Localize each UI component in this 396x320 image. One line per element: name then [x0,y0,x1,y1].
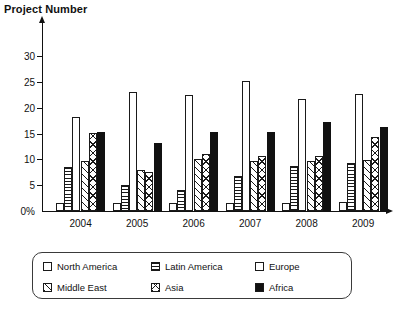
legend-item[interactable]: Asia [151,282,183,293]
chart-legend: North AmericaLatin AmericaEuropeMiddle E… [32,252,352,299]
legend-item[interactable]: Africa [255,282,293,293]
bar [145,172,153,211]
y-tick-20 [37,108,42,109]
x-tick-label: 2008 [295,218,317,229]
bar [298,99,306,211]
chart-title: Project Number [4,3,87,15]
legend-label: Europe [269,261,300,272]
bar [81,161,89,211]
legend-label: North America [57,261,117,272]
legend-swatch-icon [255,283,264,292]
bar [72,117,80,211]
y-tick-25 [37,82,42,83]
y-tick-label: 15 [24,128,35,139]
x-tick-label: 2007 [239,218,261,229]
bar [371,137,379,211]
bar [250,161,258,211]
bar-group [113,22,162,211]
bar [129,92,137,211]
y-tick-label: 5 [29,180,35,191]
legend-swatch-icon [255,262,264,271]
bar [169,203,177,211]
legend-swatch-icon [151,262,160,271]
y-axis-line [42,22,43,212]
legend-label: Africa [269,282,293,293]
x-tick-label: 2006 [182,218,204,229]
legend-item[interactable]: Europe [255,261,300,272]
legend-swatch-icon [151,283,160,292]
x-tick-label: 2009 [352,218,374,229]
bar [380,127,388,211]
legend-item[interactable]: Latin America [151,261,223,272]
y-tick-label: 20 [24,102,35,113]
bar [267,132,275,211]
legend-item[interactable]: Middle East [43,282,107,293]
bar [202,154,210,211]
x-tick-label: 2005 [126,218,148,229]
bar [323,122,331,211]
y-tick-5 [37,185,42,186]
x-tick-label: 2004 [69,218,91,229]
bar [113,203,121,211]
legend-label: Middle East [57,282,107,293]
bar [234,176,242,211]
bar [185,95,193,211]
bar [194,159,202,211]
legend-swatch-icon [43,283,52,292]
bar [89,133,97,211]
y-tick-30 [37,56,42,57]
bar [226,203,234,211]
bar [64,167,72,211]
bar [363,160,371,211]
bar-group [282,22,331,211]
bar [307,161,315,211]
bar [56,203,64,211]
bar [177,190,185,211]
bar [137,170,145,211]
bar [210,132,218,211]
plot-area: 0%51015202530 200420052006200720082009 [42,22,388,212]
legend-swatch-icon [43,262,52,271]
bar [97,132,105,211]
bar [242,81,250,211]
y-tick-10 [37,159,42,160]
bar [290,166,298,211]
bar-group [226,22,275,211]
x-axis-line [42,211,388,212]
bar-group [339,22,388,211]
bar [258,156,266,211]
y-tick-15 [37,134,42,135]
bar [315,156,323,211]
y-tick-label: 0% [21,206,35,217]
bar [347,163,355,211]
bar [355,94,363,211]
y-tick-label: 25 [24,76,35,87]
bar [154,143,162,211]
bar [121,185,129,211]
y-tick-label: 10 [24,154,35,165]
y-tick-label: 30 [24,51,35,62]
y-axis-arrow-icon [39,16,45,23]
legend-item[interactable]: North America [43,261,117,272]
bar-chart: Project Number 0%51015202530 20042005200… [0,0,396,320]
bar-group [56,22,105,211]
legend-label: Latin America [165,261,223,272]
bar [282,203,290,211]
bar [339,202,347,211]
legend-label: Asia [165,282,183,293]
bar-group [169,22,218,211]
